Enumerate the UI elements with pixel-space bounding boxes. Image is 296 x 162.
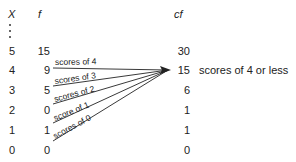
converging-arrows: scores of 4 scores of 3 scores of 2 scor… <box>0 0 296 162</box>
annotation-text: scores of 4 or less <box>199 64 288 76</box>
arrow-label-2: scores of 2 <box>53 83 96 103</box>
arrow-label-4: scores of 4 <box>55 56 97 67</box>
